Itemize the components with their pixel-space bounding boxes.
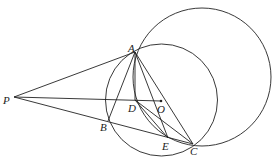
line-ae — [135, 52, 168, 138]
center-o-dot — [160, 100, 163, 103]
geometry-diagram: P A B D O E C — [0, 0, 280, 164]
circle-large — [133, 8, 271, 146]
label-b: B — [100, 121, 107, 133]
label-a: A — [127, 42, 135, 54]
label-c: C — [190, 145, 198, 157]
label-p: P — [2, 94, 10, 106]
label-o: O — [157, 103, 165, 115]
line-ac — [135, 52, 193, 144]
line-po — [14, 97, 161, 101]
line-pa — [14, 52, 135, 97]
label-e: E — [161, 140, 169, 152]
label-d: D — [127, 102, 136, 114]
